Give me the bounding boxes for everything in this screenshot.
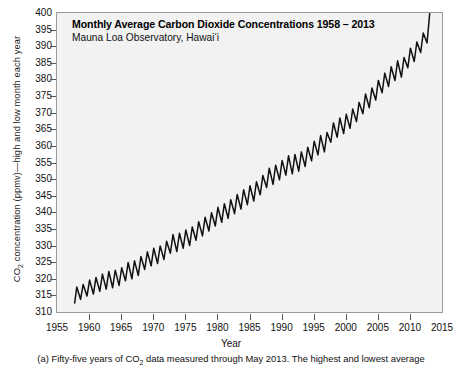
y-axis-tick-label: 315 bbox=[20, 290, 52, 300]
y-axis-tick-label: 350 bbox=[20, 174, 52, 184]
y-axis-tick-label: 370 bbox=[20, 108, 52, 118]
y-axis-tick-label: 335 bbox=[20, 224, 52, 234]
figure-co2-mauna-loa: CO2 concentration (ppmv)—high and low mo… bbox=[0, 0, 462, 365]
y-axis-tick-label: 385 bbox=[20, 58, 52, 68]
y-axis-tick-label: 375 bbox=[20, 91, 52, 101]
x-axis-tick-mark bbox=[282, 314, 283, 320]
caption-suffix: data measured through May 2013. The high… bbox=[143, 353, 424, 364]
x-axis-tick-mark bbox=[121, 314, 122, 320]
x-axis-tick-mark bbox=[314, 314, 315, 320]
x-axis-title: Year bbox=[0, 338, 462, 349]
figure-caption: (a) Fifty-five years of CO2 data measure… bbox=[0, 353, 462, 365]
x-axis-tick-mark bbox=[217, 314, 218, 320]
y-axis-tick-label: 325 bbox=[20, 257, 52, 267]
x-axis-tick-mark bbox=[378, 314, 379, 320]
y-axis-tick-label: 310 bbox=[20, 307, 52, 317]
x-axis-tick-mark bbox=[153, 314, 154, 320]
plot-area bbox=[56, 12, 443, 313]
x-axis-tick-mark bbox=[346, 314, 347, 320]
caption-prefix: (a) Fifty-five years of CO bbox=[37, 353, 139, 364]
co2-sawtooth-line bbox=[75, 14, 430, 303]
chart-title: Monthly Average Carbon Dioxide Concentra… bbox=[72, 18, 375, 30]
x-axis-tick-mark bbox=[89, 314, 90, 320]
y-axis-tick-labels: 3103153203253303353403453503553603653703… bbox=[20, 0, 52, 365]
x-axis-tick-label: 2015 bbox=[417, 322, 462, 333]
chart-subtitle: Mauna Loa Observatory, Hawai‘i bbox=[72, 32, 219, 43]
y-axis-tick-label: 380 bbox=[20, 74, 52, 84]
y-axis-tick-label: 390 bbox=[20, 41, 52, 51]
co2-line-chart-svg bbox=[57, 13, 442, 312]
y-axis-tick-label: 330 bbox=[20, 241, 52, 251]
x-axis-tick-mark bbox=[185, 314, 186, 320]
x-axis-tick-mark bbox=[250, 314, 251, 320]
y-axis-tick-label: 395 bbox=[20, 25, 52, 35]
y-axis-tick-label: 345 bbox=[20, 191, 52, 201]
y-axis-tick-label: 360 bbox=[20, 141, 52, 151]
y-axis-tick-label: 340 bbox=[20, 207, 52, 217]
y-axis-tick-label: 400 bbox=[20, 8, 52, 18]
x-axis-tick-mark bbox=[410, 314, 411, 320]
y-axis-tick-label: 355 bbox=[20, 158, 52, 168]
y-axis-tick-label: 365 bbox=[20, 124, 52, 134]
y-axis-tick-label: 320 bbox=[20, 274, 52, 284]
